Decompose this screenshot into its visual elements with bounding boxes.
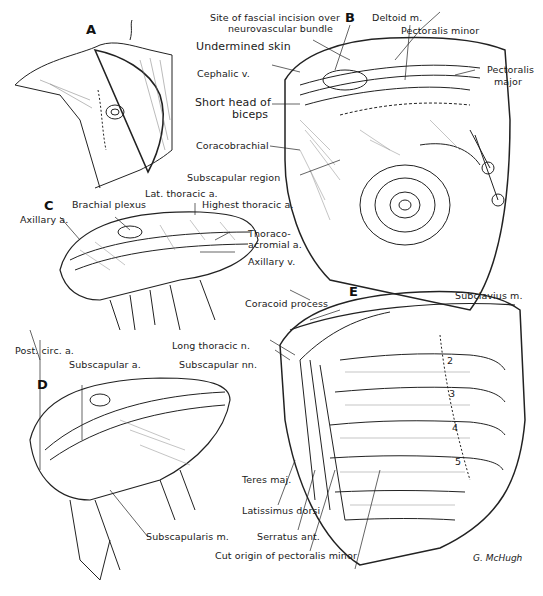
panel-c-drawing: [60, 212, 258, 330]
label-pectoralis-minor: Pectoralis minor: [401, 25, 479, 36]
label-undermined-skin: Undermined skin: [196, 41, 291, 52]
panel-label-a: A: [86, 22, 96, 37]
label-pectoralis-major: Pectoralis: [487, 64, 534, 75]
label-coracobrachial: Coracobrachial: [196, 140, 269, 151]
label-latissimus: Latissimus dorsi: [242, 505, 320, 516]
panel-e-drawing: [280, 292, 525, 565]
panel-label-b: B: [345, 10, 355, 25]
label-axillary-v: Axillary v.: [248, 256, 295, 267]
panel-label-e: E: [349, 284, 358, 299]
label-subscapular-a: Subscapular a.: [69, 359, 141, 370]
label-fascial-incision-2: neurovascular bundle: [228, 23, 333, 34]
label-deltoid: Deltoid m.: [372, 12, 422, 23]
label-subscapularis: Subscapularis m.: [146, 531, 229, 542]
panel-label-d: D: [37, 377, 48, 392]
label-post-circ: Post. circ. a.: [15, 345, 74, 356]
panel-b-drawing: [285, 38, 510, 311]
label-subscapular-region: Subscapular region: [187, 172, 280, 183]
label-highest-thoracic: Highest thoracic a.: [202, 199, 294, 210]
rib-number-3: 3: [449, 388, 455, 399]
rib-number-4: 4: [452, 422, 458, 433]
label-pectoralis-major-2: major: [494, 76, 522, 87]
label-short-head-2: biceps: [232, 109, 268, 120]
panel-d-drawing: [30, 378, 230, 580]
panel-a-drawing: [15, 20, 172, 188]
label-lat-thoracic: Lat. thoracic a.: [145, 188, 218, 199]
label-coracoid: Coracoid process: [245, 298, 328, 309]
label-fascial-incision: Site of fascial incision over: [210, 12, 340, 23]
rib-number-5: 5: [455, 456, 461, 467]
label-subclavius: Subclavius m.: [455, 290, 523, 301]
label-cut-origin: Cut origin of pectoralis minor: [215, 550, 357, 561]
label-axillary-a: Axillary a.: [20, 214, 68, 225]
panel-label-c: C: [44, 198, 54, 213]
label-short-head: Short head of: [195, 97, 271, 108]
label-long-thoracic: Long thoracic n.: [172, 340, 250, 351]
artist-signature: G. McHugh: [473, 553, 522, 563]
rib-number-2: 2: [447, 355, 453, 366]
label-subscapular-nn: Subscapular nn.: [179, 359, 257, 370]
label-brachial-plexus: Brachial plexus: [72, 199, 146, 210]
label-serratus: Serratus ant.: [257, 531, 320, 542]
label-thoraco: Thoraco-: [248, 228, 291, 239]
label-cephalic-v: Cephalic v.: [197, 68, 250, 79]
label-thoraco-2: acromial a.: [248, 239, 302, 250]
label-teres-maj: Teres maj.: [242, 474, 291, 485]
